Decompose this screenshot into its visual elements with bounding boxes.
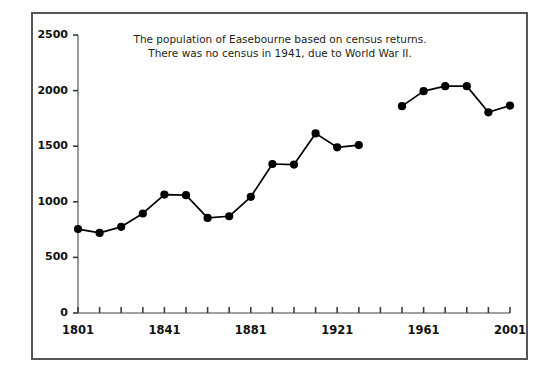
y-axis-tick-label: 1500	[26, 139, 68, 152]
data-point	[355, 141, 363, 149]
x-axis-tick-label: 1841	[140, 323, 188, 337]
chart-page: The population of Easebourne based on ce…	[0, 0, 557, 376]
chart-plot-area	[0, 0, 557, 376]
data-point	[333, 143, 341, 151]
y-axis-tick-label: 0	[26, 306, 68, 319]
data-point	[117, 223, 125, 231]
data-point	[398, 102, 406, 110]
series-line	[78, 133, 359, 233]
chart-tick-marks	[73, 35, 510, 313]
data-point	[247, 193, 255, 201]
series-line	[402, 86, 510, 112]
data-point	[441, 82, 449, 90]
data-point	[96, 229, 104, 237]
y-axis-tick-label: 500	[26, 250, 68, 263]
chart-axes	[78, 35, 510, 313]
data-point	[182, 191, 190, 199]
data-point	[312, 129, 320, 137]
y-axis-tick-label: 1000	[26, 195, 68, 208]
data-point	[204, 214, 212, 222]
data-point	[420, 87, 428, 95]
data-point	[290, 160, 298, 168]
population-series	[74, 82, 514, 237]
data-point	[463, 82, 471, 90]
data-point	[268, 160, 276, 168]
x-axis-tick-label: 1961	[400, 323, 448, 337]
x-axis-tick-label: 2001	[486, 323, 534, 337]
data-point	[225, 212, 233, 220]
data-point	[139, 209, 147, 217]
data-point	[74, 225, 82, 233]
data-point	[484, 108, 492, 116]
x-axis-tick-label: 1801	[54, 323, 102, 337]
data-point	[160, 190, 168, 198]
x-axis-tick-label: 1881	[227, 323, 275, 337]
data-point	[506, 102, 514, 110]
x-axis-tick-label: 1921	[313, 323, 361, 337]
y-axis-tick-label: 2000	[26, 84, 68, 97]
y-axis-tick-label: 2500	[26, 28, 68, 41]
